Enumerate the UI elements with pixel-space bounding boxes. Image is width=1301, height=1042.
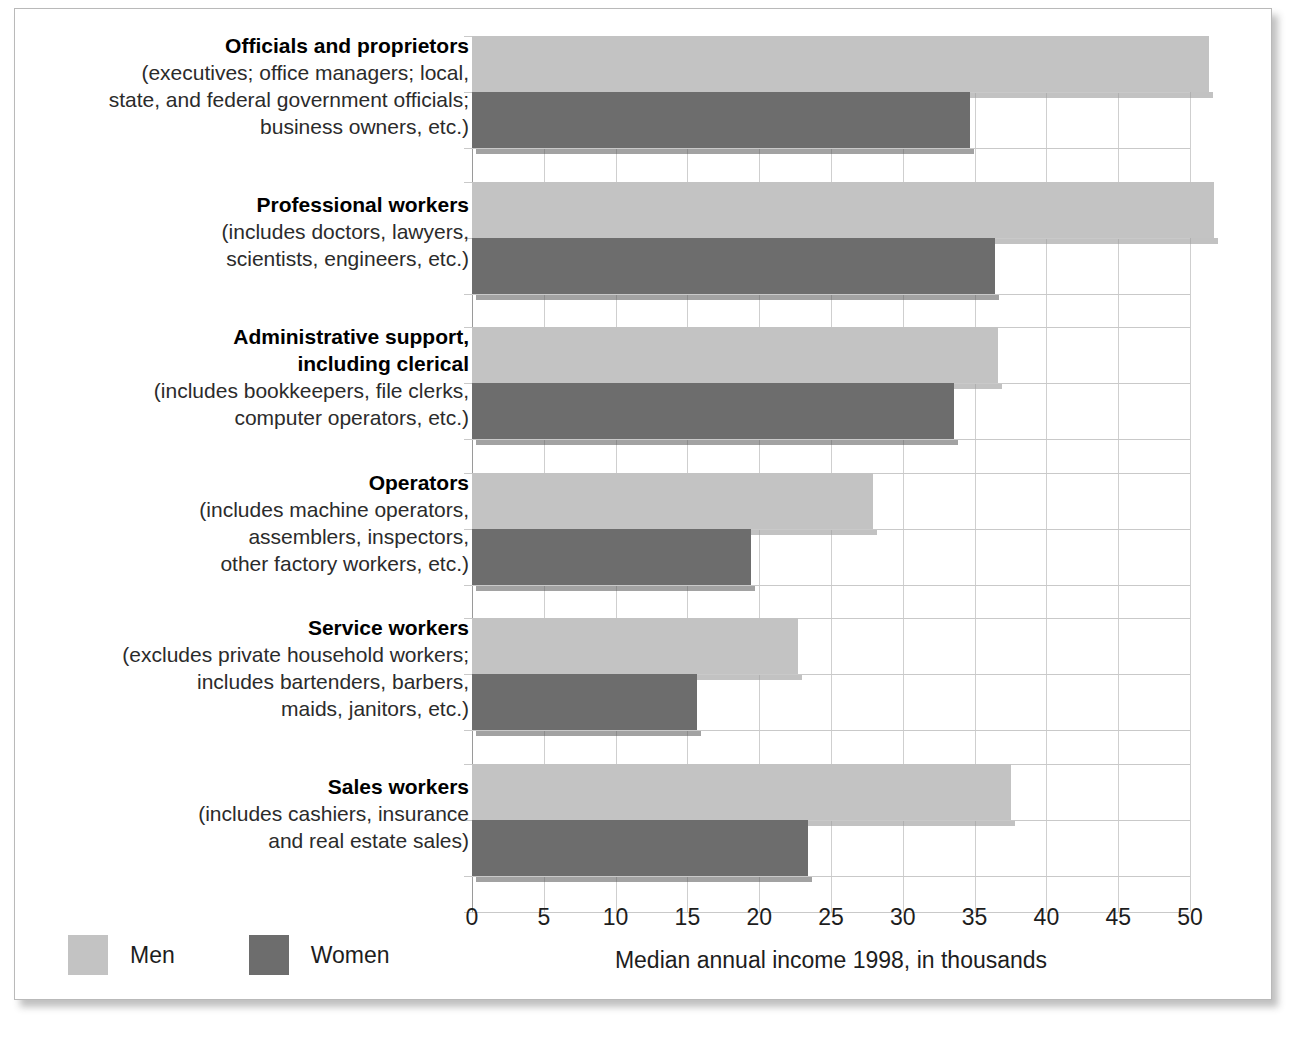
category-title: Professional workers	[222, 191, 469, 218]
x-tick-50: 50	[1177, 904, 1203, 931]
category-subtitle-2: business owners, etc.)	[109, 113, 469, 140]
x-tick-5: 5	[537, 904, 550, 931]
category-label-3: Operators(includes machine operators,ass…	[199, 469, 469, 577]
category-label-1: Professional workers(includes doctors, l…	[222, 191, 469, 272]
category-subtitle-0: (includes bookkeepers, file clerks,	[154, 377, 469, 404]
women-swatch	[249, 935, 289, 975]
category-subtitle-0: (includes machine operators,	[199, 496, 469, 523]
category-subtitle-1: and real estate sales)	[198, 827, 469, 854]
bar-women-2	[472, 383, 954, 439]
category-subtitle-1: includes bartenders, barbers,	[122, 668, 469, 695]
category-title: Administrative support,	[154, 323, 469, 350]
category-subtitle-1: computer operators, etc.)	[154, 404, 469, 431]
legend-label: Women	[311, 942, 390, 969]
bar-men-1	[472, 182, 1214, 238]
group-rule	[464, 439, 1190, 440]
category-title: Service workers	[122, 614, 469, 641]
bar-men-3	[472, 473, 873, 529]
category-label-0: Officials and proprietors(executives; of…	[109, 32, 469, 140]
men-swatch	[68, 935, 108, 975]
grouped-bar-chart: Officials and proprietors(executives; of…	[0, 0, 1301, 1042]
bar-men-5	[472, 764, 1011, 820]
x-axis-title: Median annual income 1998, in thousands	[472, 947, 1190, 974]
legend-item-men: Men	[68, 935, 175, 975]
plot-area	[472, 36, 1190, 912]
x-tick-15: 15	[675, 904, 701, 931]
x-tick-35: 35	[962, 904, 988, 931]
group-rule	[464, 730, 1190, 731]
category-subtitle-1: assemblers, inspectors,	[199, 523, 469, 550]
group-rule	[464, 148, 1190, 149]
category-subtitle-0: (executives; office managers; local,	[109, 59, 469, 86]
gridline-40	[1046, 36, 1047, 912]
bar-women-1	[472, 238, 995, 294]
category-subtitle-0: (excludes private household workers;	[122, 641, 469, 668]
group-rule	[464, 294, 1190, 295]
x-tick-20: 20	[746, 904, 772, 931]
category-subtitle-0: (includes cashiers, insurance	[198, 800, 469, 827]
gridline-45	[1118, 36, 1119, 912]
legend-item-women: Women	[249, 935, 390, 975]
category-label-2: Administrative support,including clerica…	[154, 323, 469, 431]
category-subtitle-1: scientists, engineers, etc.)	[222, 245, 469, 272]
bar-men-0	[472, 36, 1209, 92]
category-title: Officials and proprietors	[109, 32, 469, 59]
category-label-5: Sales workers(includes cashiers, insuran…	[198, 773, 469, 854]
category-subtitle-0: (includes doctors, lawyers,	[222, 218, 469, 245]
category-label-4: Service workers(excludes private househo…	[122, 614, 469, 722]
category-subtitle-2: other factory workers, etc.)	[199, 550, 469, 577]
bar-men-2	[472, 327, 998, 383]
category-subtitle-2: maids, janitors, etc.)	[122, 695, 469, 722]
group-rule	[464, 876, 1190, 877]
chart-legend: MenWomen	[68, 935, 464, 975]
category-title: Operators	[199, 469, 469, 496]
gridline-50	[1190, 36, 1191, 912]
group-rule	[464, 585, 1190, 586]
x-tick-45: 45	[1105, 904, 1131, 931]
bar-women-4	[472, 674, 697, 730]
x-tick-40: 40	[1034, 904, 1060, 931]
category-subtitle-1: state, and federal government officials;	[109, 86, 469, 113]
bar-women-0	[472, 92, 970, 148]
x-tick-10: 10	[603, 904, 629, 931]
category-title-line2: including clerical	[154, 350, 469, 377]
bar-women-3	[472, 529, 751, 585]
bar-men-4	[472, 618, 798, 674]
x-tick-30: 30	[890, 904, 916, 931]
x-tick-25: 25	[818, 904, 844, 931]
bar-women-5	[472, 820, 808, 876]
x-tick-0: 0	[466, 904, 479, 931]
legend-label: Men	[130, 942, 175, 969]
category-title: Sales workers	[198, 773, 469, 800]
